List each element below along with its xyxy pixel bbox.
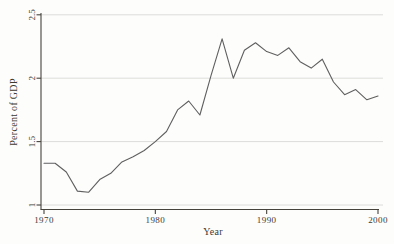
gdp-data-line: [44, 39, 378, 192]
x-tick-label: 1980: [146, 215, 166, 225]
y-tick-label: 2: [27, 76, 37, 81]
y-tick-label: 1.5: [27, 135, 37, 147]
chart-container: 11.522.51970198019902000 Percent of GDP …: [0, 0, 394, 244]
x-tick-label: 1990: [257, 215, 277, 225]
x-tick-label: 2000: [368, 215, 388, 225]
y-tick-label: 1: [27, 203, 37, 208]
y-axis-title: Percent of GDP: [8, 78, 19, 146]
x-axis-title: Year: [203, 226, 223, 237]
line-chart-svg: 11.522.51970198019902000: [0, 0, 394, 244]
y-tick-label: 2.5: [27, 9, 37, 21]
x-tick-label: 1970: [34, 215, 54, 225]
